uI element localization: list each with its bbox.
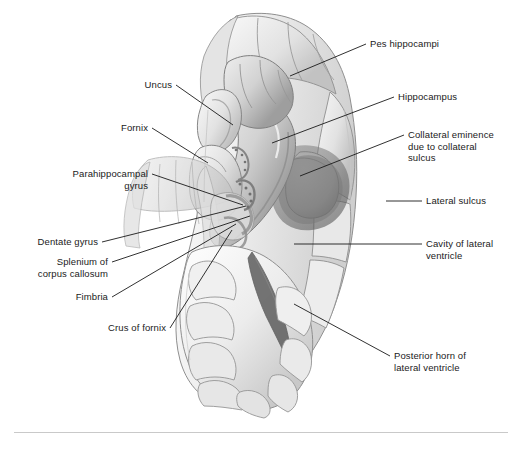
- label-hippocampus: Hippocampus: [398, 91, 457, 103]
- label-splenium-corpus-callosum-line-1: corpus callosum: [22, 268, 108, 280]
- label-posterior-horn-line-1: lateral ventricle: [394, 362, 466, 374]
- label-lateral-sulcus: Lateral sulcus: [426, 195, 486, 207]
- label-crus-of-fornix-line-0: Crus of fornix: [90, 322, 166, 334]
- label-collateral-eminence-line-1: due to collateral: [408, 141, 494, 153]
- label-dentate-gyrus-line-0: Dentate gyrus: [22, 236, 98, 248]
- brain-illustration: [0, 0, 522, 451]
- label-dentate-gyrus: Dentate gyrus: [22, 236, 98, 248]
- label-crus-of-fornix: Crus of fornix: [90, 322, 166, 334]
- label-cavity-lateral-ventricle-line-0: Cavity of lateral: [426, 238, 493, 250]
- label-collateral-eminence-line-0: Collateral eminence: [408, 129, 494, 141]
- label-collateral-eminence-line-2: sulcus: [408, 152, 494, 164]
- label-parahippocampal-gyrus-line-0: Parahippocampal: [28, 168, 148, 180]
- label-posterior-horn-line-0: Posterior horn of: [394, 350, 466, 362]
- label-fornix-line-0: Fornix: [84, 122, 148, 134]
- label-uncus: Uncus: [108, 79, 172, 91]
- label-cavity-lateral-ventricle-line-1: ventricle: [426, 250, 493, 262]
- label-uncus-line-0: Uncus: [108, 79, 172, 91]
- label-lateral-sulcus-line-0: Lateral sulcus: [426, 195, 486, 207]
- label-fimbria-line-0: Fimbria: [42, 291, 108, 303]
- label-pes-hippocampi: Pes hippocampi: [370, 38, 439, 50]
- label-posterior-horn: Posterior horn oflateral ventricle: [394, 350, 466, 373]
- label-hippocampus-line-0: Hippocampus: [398, 91, 457, 103]
- label-splenium-corpus-callosum-line-0: Splenium of: [22, 256, 108, 268]
- brain-tissue-group: [124, 13, 357, 418]
- figure-root: Pes hippocampiUncusHippocampusFornixColl…: [0, 0, 522, 451]
- label-cavity-lateral-ventricle: Cavity of lateralventricle: [426, 238, 493, 261]
- label-fimbria: Fimbria: [42, 291, 108, 303]
- label-pes-hippocampi-line-0: Pes hippocampi: [370, 38, 439, 50]
- caption-divider: [14, 432, 508, 433]
- label-fornix: Fornix: [84, 122, 148, 134]
- label-parahippocampal-gyrus: Parahippocampalgyrus: [28, 168, 148, 191]
- label-splenium-corpus-callosum: Splenium ofcorpus callosum: [22, 256, 108, 279]
- label-collateral-eminence: Collateral eminencedue to collateralsulc…: [408, 129, 494, 164]
- label-parahippocampal-gyrus-line-1: gyrus: [28, 180, 148, 192]
